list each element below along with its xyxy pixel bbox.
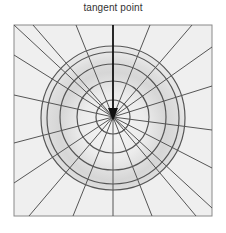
tangent-plane-diagram xyxy=(0,0,226,233)
